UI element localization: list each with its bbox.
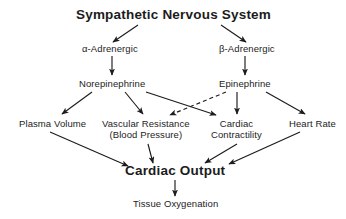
node-vascular-resistance: Vascular Resistance (Blood Pressure): [102, 118, 190, 140]
node-beta-adrenergic: β-Adrenergic: [219, 43, 275, 54]
node-tissue-oxygenation: Tissue Oxygenation: [133, 198, 218, 209]
edge-vascular-resistance-to-cardiac-output: [148, 144, 153, 163]
edge-norepinephrine-to-vascular-resistance: [125, 92, 143, 114]
node-cardiac-contractility: Cardiac Contractility: [211, 118, 262, 140]
node-cardiac-output: Cardiac Output: [125, 163, 225, 178]
edge-norepinephrine-to-cardiac-contractility: [146, 92, 216, 115]
node-heart-rate: Heart Rate: [289, 118, 336, 129]
edge-sns-to-alpha: [113, 25, 138, 42]
node-alpha-adrenergic: α-Adrenergic: [82, 43, 138, 54]
node-epinephrine: Epinephrine: [219, 78, 271, 89]
edge-sns-to-beta: [221, 25, 246, 42]
edge-epinephrine-to-vascular-resistance: [170, 92, 226, 115]
node-norepinephrine: Norepinephrine: [79, 78, 145, 89]
edge-layer: [0, 0, 346, 219]
node-sympathetic-nervous-system: Sympathetic Nervous System: [76, 7, 271, 22]
edge-cardiac-contractility-to-cardiac-output: [205, 144, 237, 163]
diagram-canvas: Sympathetic Nervous System α-Adrenergic …: [0, 0, 346, 219]
edge-epinephrine-to-heart-rate: [266, 92, 305, 114]
edge-norepinephrine-to-plasma-volume: [62, 92, 92, 114]
node-plasma-volume: Plasma Volume: [19, 118, 86, 129]
